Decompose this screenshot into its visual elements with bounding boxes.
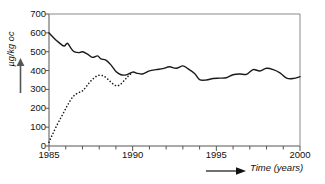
axis-lines bbox=[49, 14, 300, 146]
tick-marks bbox=[46, 14, 301, 151]
chart-figure: µg/kg oc Time (years) 010020030040050060… bbox=[0, 0, 325, 184]
series-solid-curve bbox=[49, 33, 300, 80]
data-series bbox=[49, 33, 300, 142]
plot-area bbox=[0, 0, 325, 184]
series-dotted-curve bbox=[49, 72, 133, 142]
